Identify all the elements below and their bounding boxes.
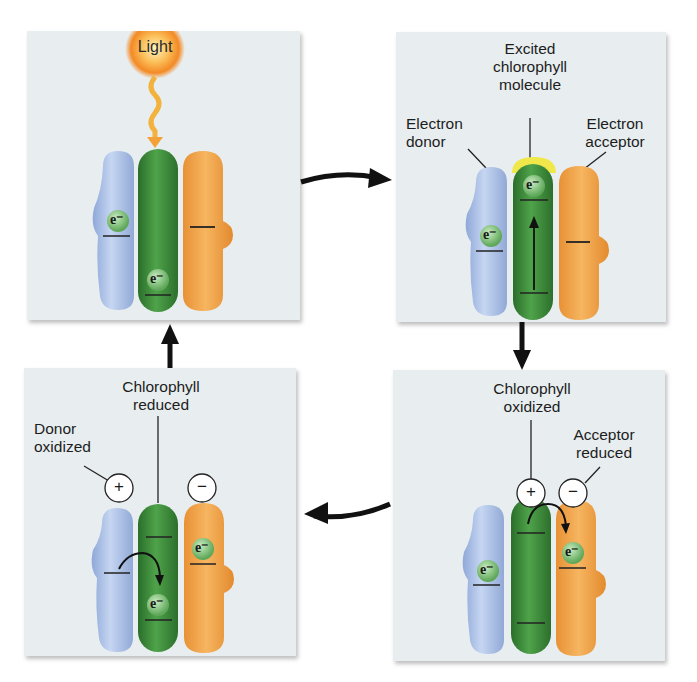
chlorophyll-oxidized-label: Chlorophyll oxidized [477, 380, 587, 416]
cycle-arrow-left-icon [298, 496, 394, 530]
donor-oxidized-label: Donor oxidized [34, 420, 114, 456]
minus-charge-label: − [197, 477, 207, 497]
electron-label: e⁻ [150, 270, 163, 287]
electron-acceptor-shape [184, 503, 234, 653]
electron-label: e⁻ [110, 211, 123, 228]
panel-1-graphic [27, 31, 300, 320]
electron-label: e⁻ [483, 226, 496, 243]
photon-wave-icon [151, 77, 159, 139]
chlorophyll-reduced-label: Chlorophyll reduced [106, 378, 216, 414]
panel-charge-separation: Chlorophyll oxidized Acceptor reduced + … [393, 370, 665, 661]
electron-label: e⁻ [526, 176, 539, 193]
electron-label: e⁻ [195, 539, 208, 556]
panel-chlorophyll-reduction: Chlorophyll reduced Donor oxidized + − e… [24, 368, 296, 656]
cycle-arrow-down-icon [510, 320, 534, 372]
acceptor-reduced-label: Acceptor reduced [559, 426, 649, 462]
electron-label: e⁻ [150, 595, 163, 612]
excited-chlorophyll-label: Excited chlorophyll molecule [480, 40, 580, 94]
electron-acceptor-shape [559, 166, 609, 320]
panel-excitation: Excited chlorophyll molecule Electron do… [396, 32, 666, 322]
minus-charge-label: − [568, 482, 578, 502]
electron-label: e⁻ [480, 561, 493, 578]
electron-label: e⁻ [565, 543, 578, 560]
cycle-arrow-right-icon [298, 160, 394, 200]
cycle-arrow-up-icon [158, 322, 182, 370]
electron-acceptor-label: Electron acceptor [570, 115, 660, 151]
electron-donor-label: Electron donor [406, 115, 486, 151]
light-label: Light [125, 38, 185, 56]
chlorophyll-shape [511, 498, 551, 654]
panel-light-absorption: Light e⁻ e⁻ [27, 31, 300, 320]
electron-acceptor-shape [556, 500, 606, 656]
plus-charge-label: + [114, 477, 124, 497]
electron-acceptor-shape [183, 151, 233, 311]
plus-charge-label: + [526, 482, 536, 502]
electron-donor-shape [92, 508, 133, 652]
